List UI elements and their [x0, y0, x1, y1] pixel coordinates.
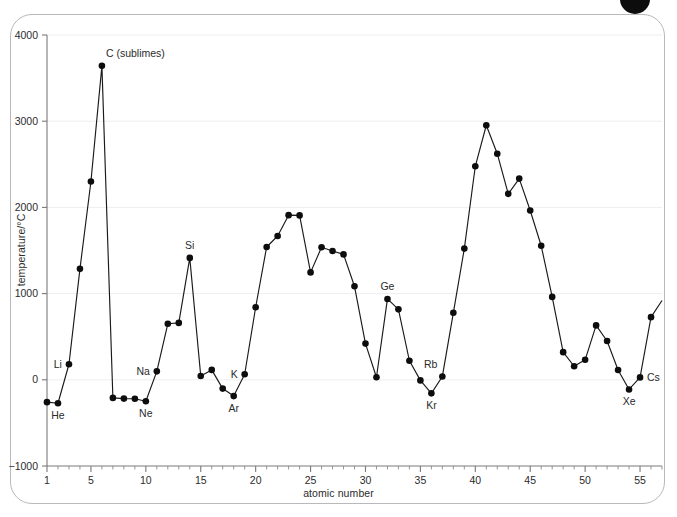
- data-point: [263, 244, 270, 251]
- point-label-ge: Ge: [380, 280, 394, 292]
- data-point: [252, 304, 259, 311]
- data-point: [373, 374, 380, 381]
- data-point: [219, 385, 226, 392]
- data-point: [538, 242, 545, 249]
- data-point: [121, 395, 128, 402]
- data-point: [208, 367, 215, 374]
- data-point: [428, 390, 435, 397]
- point-label-ne: Ne: [139, 407, 153, 419]
- data-point: [593, 322, 600, 329]
- data-point: [604, 338, 611, 345]
- point-label-kr: Kr: [426, 399, 437, 411]
- data-point: [648, 314, 655, 321]
- data-point: [549, 294, 556, 301]
- data-point: [450, 310, 457, 317]
- data-point: [461, 245, 468, 252]
- data-point: [560, 349, 567, 356]
- data-point: [274, 233, 281, 240]
- data-point: [197, 373, 204, 380]
- point-label-li: Li: [54, 358, 62, 370]
- x-tick-label: 1: [44, 474, 50, 486]
- y-axis-title: temperature/°C: [15, 185, 27, 315]
- y-tick-label: 0: [32, 373, 38, 385]
- data-point: [132, 395, 139, 402]
- y-tick-label: −1000: [9, 460, 39, 472]
- data-point: [175, 320, 182, 327]
- data-point: [154, 368, 161, 375]
- data-point: [44, 399, 51, 406]
- data-point: [406, 357, 413, 364]
- data-point: [483, 122, 490, 129]
- data-point: [439, 373, 446, 380]
- point-label-rb: Rb: [424, 358, 438, 370]
- data-point: [351, 283, 358, 290]
- data-point: [296, 212, 303, 219]
- data-point: [582, 357, 589, 364]
- x-tick-label: 30: [360, 474, 372, 486]
- data-point: [66, 361, 73, 368]
- x-tick-label: 35: [415, 474, 427, 486]
- y-tick-label: 4000: [15, 29, 39, 41]
- point-annotations: HeLiC (sublimes)NeNaSiArKGeKrRbXeCs: [51, 47, 660, 421]
- data-point: [230, 393, 237, 400]
- data-point: [307, 269, 314, 276]
- point-label-xe: Xe: [623, 395, 636, 407]
- data-point: [88, 178, 95, 185]
- data-point: [571, 363, 578, 370]
- data-point: [395, 306, 402, 313]
- x-axis-title: atomic number: [0, 487, 677, 499]
- data-point: [241, 371, 248, 378]
- data-point: [527, 207, 534, 214]
- data-point: [99, 63, 106, 70]
- melting-point-line-chart: −100001000200030004000151015202530354045…: [0, 0, 677, 517]
- data-point: [384, 296, 391, 303]
- x-tick-label: 20: [250, 474, 262, 486]
- data-point: [318, 244, 325, 251]
- y-tick-label: 3000: [15, 115, 39, 127]
- x-axis-ticks: 1510152025303540455055: [44, 466, 646, 486]
- data-point: [55, 400, 62, 407]
- x-tick-label: 15: [195, 474, 207, 486]
- point-label-na: Na: [136, 365, 150, 377]
- point-label-si: Si: [185, 239, 194, 251]
- point-label-he: He: [51, 409, 65, 421]
- data-point: [362, 340, 369, 347]
- point-label-k: K: [231, 368, 238, 380]
- data-point: [472, 163, 479, 170]
- data-point: [505, 191, 512, 198]
- x-tick-label: 10: [140, 474, 152, 486]
- data-point: [516, 175, 523, 182]
- data-point: [77, 266, 84, 273]
- data-point: [186, 255, 193, 262]
- data-point: [615, 367, 622, 374]
- point-label-ar: Ar: [228, 402, 239, 414]
- data-point: [494, 150, 501, 157]
- data-line-melting-point: [47, 66, 662, 403]
- data-point: [143, 398, 150, 405]
- x-tick-label: 45: [524, 474, 536, 486]
- data-point: [285, 212, 292, 219]
- x-tick-label: 50: [579, 474, 591, 486]
- point-label-cs: Cs: [647, 371, 660, 383]
- x-tick-label: 40: [469, 474, 481, 486]
- grid-lines: [47, 35, 662, 380]
- data-markers: [44, 63, 655, 407]
- data-point: [626, 386, 633, 393]
- data-point: [637, 374, 644, 381]
- data-point: [340, 251, 347, 258]
- data-point: [417, 377, 424, 384]
- x-tick-label: 5: [88, 474, 94, 486]
- data-point: [329, 248, 336, 255]
- data-point: [165, 320, 172, 327]
- point-label-c: C (sublimes): [106, 47, 165, 59]
- data-point: [110, 395, 117, 402]
- x-tick-label: 25: [305, 474, 317, 486]
- x-tick-label: 55: [634, 474, 646, 486]
